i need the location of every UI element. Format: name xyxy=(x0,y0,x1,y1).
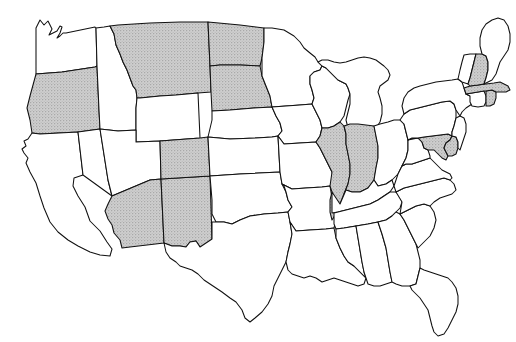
state-ND[interactable] xyxy=(208,22,264,66)
us-map-svg xyxy=(0,0,516,342)
state-RI[interactable] xyxy=(486,90,496,106)
state-OR[interactable] xyxy=(27,66,100,134)
state-CO[interactable] xyxy=(160,137,210,179)
state-FL[interactable] xyxy=(410,268,458,336)
us-choropleth-map xyxy=(0,0,516,342)
state-NM[interactable] xyxy=(161,176,212,247)
state-KS[interactable] xyxy=(208,136,280,176)
state-WA[interactable] xyxy=(36,20,97,74)
states-layer xyxy=(22,18,510,336)
state-NE[interactable] xyxy=(208,107,282,139)
state-WY[interactable] xyxy=(136,93,200,142)
